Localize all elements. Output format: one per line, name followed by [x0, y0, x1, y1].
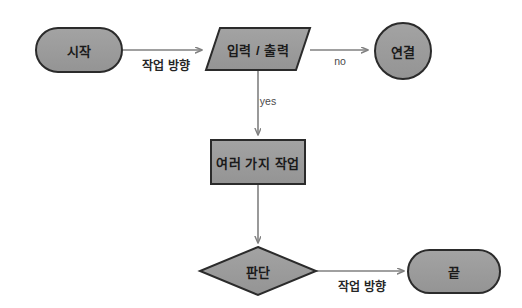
node-io-shape[interactable]: [206, 28, 310, 70]
node-decision-shape[interactable]: [200, 247, 316, 295]
node-start-shape[interactable]: [36, 28, 122, 72]
flowchart-canvas: 시작 입력 / 출력 연결 여러 가지 작업 판단 끝 작업 방향 no yes…: [0, 0, 522, 308]
node-process-shape[interactable]: [211, 140, 305, 184]
node-end-shape[interactable]: [408, 250, 500, 293]
node-connector-shape[interactable]: [375, 23, 431, 79]
flowchart-svg: [0, 0, 522, 308]
edge-label-io-to-connector: no: [334, 55, 346, 67]
edge-label-start-to-io: 작업 방향: [142, 56, 189, 73]
edge-label-decision-to-end: 작업 방향: [338, 277, 385, 294]
edge-label-io-to-process: yes: [260, 95, 276, 107]
